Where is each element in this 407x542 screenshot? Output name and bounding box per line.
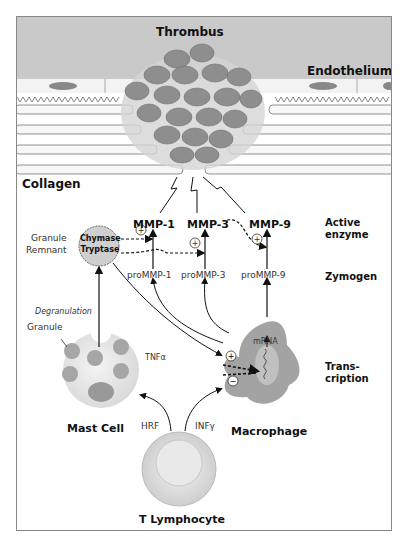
label-active-enzyme: Active enzyme <box>325 217 368 241</box>
svg-text:−: − <box>230 377 237 386</box>
label-granule-remnant: Granule Remnant <box>26 232 67 256</box>
label-inf-gamma: INFγ <box>195 421 215 431</box>
t-lymphocyte-graphic <box>142 432 216 506</box>
collagen-cleavage-bolts <box>160 177 245 213</box>
label-t-lymphocyte: T Lymphocyte <box>139 513 225 526</box>
label-endothelium: Endothelium <box>307 64 392 78</box>
label-mmp-1: MMP-1 <box>133 218 175 231</box>
label-transcription-line1: Trans- <box>325 361 369 373</box>
label-transcription: Trans- cription <box>325 361 369 385</box>
label-granule-remnant-line2: Remnant <box>26 244 67 256</box>
label-collagen: Collagen <box>22 177 81 191</box>
svg-text:+: + <box>192 239 199 248</box>
label-mast-cell: Mast Cell <box>67 422 124 435</box>
label-prommp-9: proMMP-9 <box>241 270 285 280</box>
label-active-enzyme-line2: enzyme <box>325 229 368 241</box>
granule-remnant-contents: Chymase Tryptase <box>80 233 120 255</box>
label-mrna: mRNA <box>253 337 278 346</box>
svg-text:+: + <box>254 235 261 244</box>
label-transcription-line2: cription <box>325 373 369 385</box>
label-prommp-3: proMMP-3 <box>181 270 225 280</box>
label-macrophage: Macrophage <box>231 425 307 438</box>
label-prommp-1: proMMP-1 <box>127 270 171 280</box>
label-active-enzyme-line1: Active <box>325 217 368 229</box>
svg-text:+: + <box>228 352 235 361</box>
label-zymogen: Zymogen <box>325 271 377 282</box>
label-hrf: HRF <box>141 421 159 431</box>
label-mmp-9: MMP-9 <box>249 218 291 231</box>
label-mmp-3: MMP-3 <box>187 218 229 231</box>
label-granule-remnant-line1: Granule <box>26 232 67 244</box>
label-tnf-alpha: TNFα <box>145 353 166 362</box>
label-granule: Granule <box>27 322 63 332</box>
label-chymase: Chymase <box>80 233 120 244</box>
label-thrombus: Thrombus <box>156 25 224 39</box>
label-tryptase: Tryptase <box>80 244 120 255</box>
mast-cell-graphic <box>61 323 139 408</box>
label-degranulation: Degranulation <box>35 307 92 316</box>
diagram-frame: +++ + − <box>16 16 392 531</box>
